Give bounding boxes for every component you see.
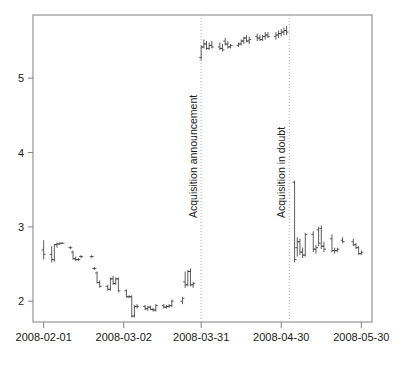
ohlc-price-chart: 2008-02-012008-03-022008-03-312008-04-30… [0,0,405,365]
x-tick-label: 2008-03-31 [173,331,229,343]
y-tick-label: 5 [18,72,24,84]
x-axis-tick-labels: 2008-02-012008-03-022008-03-312008-04-30… [16,331,390,343]
y-tick-label: 2 [18,295,24,307]
y-tick-label: 3 [18,221,24,233]
x-tick-label: 2008-04-30 [253,331,309,343]
chart-background [0,0,405,365]
annotation-label-1: Acquisition in doubt [275,127,287,218]
x-tick-label: 2008-03-02 [96,331,152,343]
x-tick-label: 2008-02-01 [16,331,72,343]
y-tick-label: 4 [18,147,24,159]
x-tick-label: 2008-05-30 [333,331,389,343]
annotation-label-0: Acquisition announcement [187,95,199,218]
chart-root: 2008-02-012008-03-022008-03-312008-04-30… [0,0,405,365]
